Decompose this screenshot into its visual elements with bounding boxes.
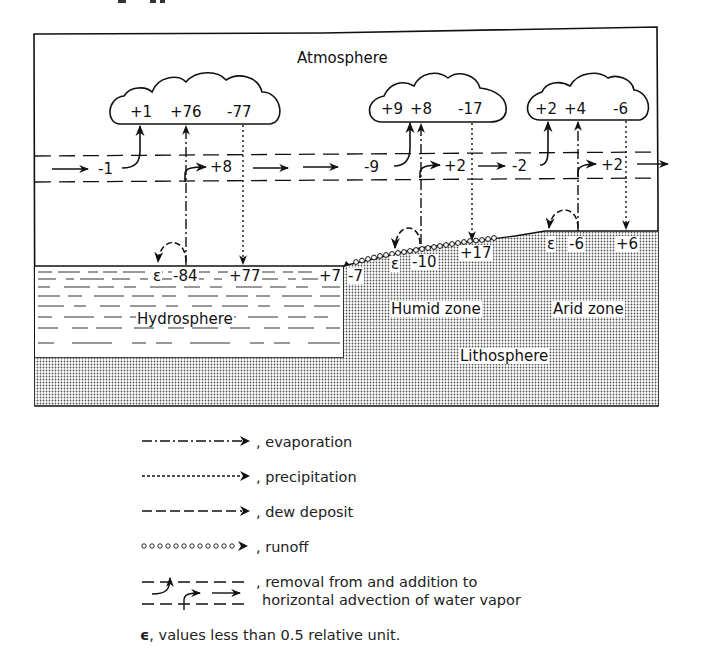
humid-dew-epsilon: ε <box>390 256 400 272</box>
cloud-arid-value-1: +2 <box>535 101 557 117</box>
ocean-evaporation-value: -84 <box>172 268 199 284</box>
evaporation-line-icon <box>140 434 252 448</box>
advection-ocean-addition: +8 <box>210 159 232 175</box>
arid-precipitation-value: +6 <box>615 236 639 252</box>
advection-band-top <box>35 152 657 156</box>
humid-precipitation-value: +17 <box>459 245 493 261</box>
cloud-ocean-value-1: +1 <box>130 104 152 120</box>
cloud-humid-value-3: -17 <box>458 101 483 117</box>
atmosphere-label: Atmosphere <box>297 50 388 66</box>
cloud-ocean-value-2: +76 <box>170 104 202 120</box>
advection-arid-addition: +2 <box>601 157 623 173</box>
arid-zone-label: Arid zone <box>552 301 625 317</box>
arid-dew-epsilon: ε <box>546 236 556 252</box>
precipitation-line-icon <box>140 469 252 483</box>
advection-ocean-removal: -1 <box>98 161 113 177</box>
humid-runoff-out-value: -7 <box>347 268 364 284</box>
dew-deposit-line-icon <box>140 504 252 518</box>
advection-humid-removal: -9 <box>364 159 379 175</box>
humid-zone-label: Humid zone <box>390 301 482 317</box>
arid-evaporation-value: -6 <box>568 236 585 252</box>
runoff-line-icon <box>140 539 252 553</box>
lithosphere-label: Lithosphere <box>459 348 549 364</box>
advection-band-bottom <box>35 178 657 182</box>
ocean-dew-epsilon: ε <box>152 268 162 284</box>
cloud-humid-value-2: +8 <box>410 101 432 117</box>
advection-arid-removal: -2 <box>512 158 527 174</box>
hydrosphere-label: Hydrosphere <box>136 311 234 327</box>
humid-evaporation-value: -10 <box>411 254 438 270</box>
advection-line-icon <box>140 574 252 614</box>
ocean-precipitation-value: +77 <box>228 268 262 284</box>
advection-humid-addition: +2 <box>444 158 466 174</box>
ocean-runoff-in-value: +7 <box>318 268 342 284</box>
cloud-ocean-value-3: -77 <box>227 104 252 120</box>
cloud-arid-value-2: +4 <box>564 101 586 117</box>
cloud-arid-value-3: -6 <box>613 101 628 117</box>
epsilon-symbol: ϵ <box>140 627 149 643</box>
legend-epsilon-note: ϵ, values less than 0.5 relative unit. <box>140 627 400 643</box>
cloud-humid-value-1: +9 <box>381 101 403 117</box>
